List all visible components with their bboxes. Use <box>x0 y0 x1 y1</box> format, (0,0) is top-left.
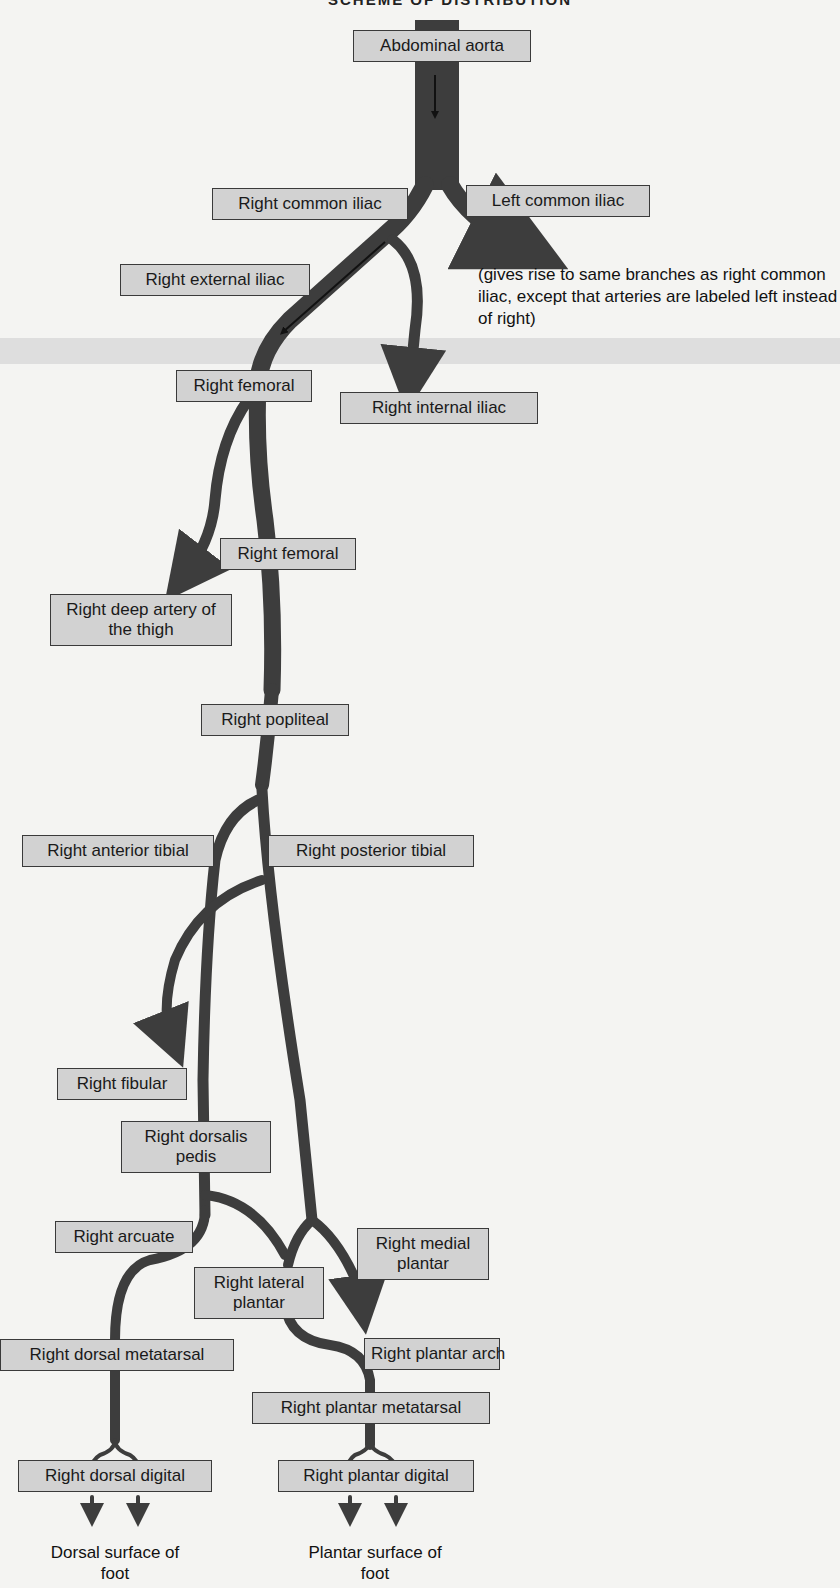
right-fibular-vessel <box>167 880 262 1040</box>
label-right-dorsalis-pedis: Right dorsalis pedis <box>121 1121 271 1173</box>
label-abdominal-aorta: Abdominal aorta <box>353 30 531 62</box>
right-internal-iliac-vessel <box>393 240 417 380</box>
label-right-posterior-tibial: Right posterior tibial <box>268 835 474 867</box>
label-right-dorsal-digital: Right dorsal digital <box>18 1460 212 1492</box>
label-right-external-iliac: Right external iliac <box>120 264 310 296</box>
label-right-deep-artery-thigh: Right deep artery of the thigh <box>50 594 232 646</box>
label-right-medial-plantar: Right medial plantar <box>357 1228 489 1280</box>
label-right-femoral-lower: Right femoral <box>220 538 356 570</box>
caption-plantar-surface: Plantar surface of foot <box>300 1542 450 1584</box>
label-right-femoral-upper: Right femoral <box>176 370 312 402</box>
label-right-fibular: Right fibular <box>57 1068 187 1100</box>
right-plantar-arch-vessel <box>285 1305 370 1445</box>
right-arcuate-vessel <box>205 1195 285 1255</box>
label-right-plantar-arch: Right plantar arch <box>364 1338 500 1370</box>
label-left-common-iliac: Left common iliac <box>466 185 650 217</box>
label-right-popliteal: Right popliteal <box>201 704 349 736</box>
label-right-arcuate: Right arcuate <box>55 1221 193 1253</box>
label-right-plantar-digital: Right plantar digital <box>278 1460 474 1492</box>
label-right-internal-iliac: Right internal iliac <box>340 392 538 424</box>
label-right-dorsal-metatarsal: Right dorsal metatarsal <box>0 1339 234 1371</box>
label-right-anterior-tibial: Right anterior tibial <box>22 835 214 867</box>
label-right-plantar-metatarsal: Right plantar metatarsal <box>252 1392 490 1424</box>
right-lateral-plantar-vessel <box>288 1220 312 1265</box>
label-right-lateral-plantar: Right lateral plantar <box>194 1267 324 1319</box>
caption-dorsal-surface: Dorsal surface of foot <box>40 1542 190 1584</box>
left-side-note: (gives rise to same branches as right co… <box>478 264 840 330</box>
label-right-common-iliac: Right common iliac <box>212 188 408 220</box>
